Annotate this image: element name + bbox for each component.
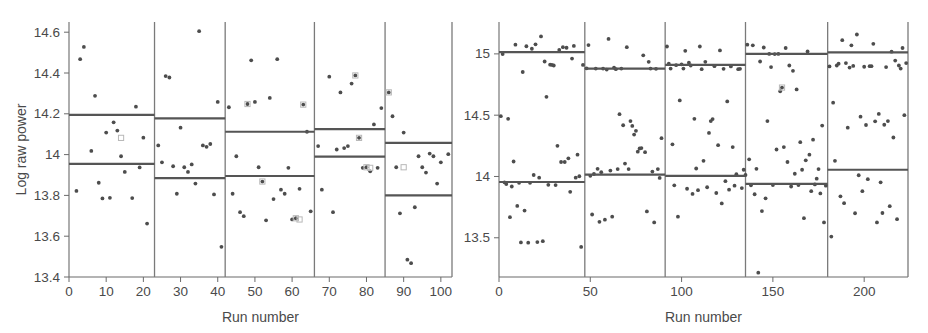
data-point xyxy=(130,196,134,200)
data-point xyxy=(208,142,212,146)
data-point xyxy=(524,44,528,48)
data-point xyxy=(576,153,580,157)
data-point xyxy=(660,136,664,140)
data-point xyxy=(817,167,821,171)
x-tick-label: 60 xyxy=(285,284,300,299)
data-point xyxy=(618,112,622,116)
data-point xyxy=(795,88,799,92)
data-point xyxy=(793,172,797,176)
chart-panel-left: 13.413.613.81414.214.414.601020304050607… xyxy=(0,0,464,333)
data-point xyxy=(769,65,773,69)
y-tick-label: 13.4 xyxy=(34,270,61,285)
data-point xyxy=(242,214,246,218)
data-point xyxy=(733,184,737,188)
data-point xyxy=(828,64,832,68)
data-point xyxy=(532,173,536,177)
data-point xyxy=(309,209,313,213)
x-axis-title: Run number xyxy=(222,309,299,325)
data-point xyxy=(848,66,852,70)
data-point xyxy=(839,194,843,198)
data-point xyxy=(101,197,105,201)
data-point xyxy=(335,148,339,152)
data-point xyxy=(691,192,695,196)
data-point xyxy=(787,64,791,68)
data-point xyxy=(112,120,116,124)
data-point xyxy=(846,126,850,130)
data-point xyxy=(755,167,759,171)
data-point xyxy=(714,191,718,195)
data-point xyxy=(570,57,574,61)
plot-area-right-panel: 13.51414.515050100150200Run numberLog ra… xyxy=(464,0,928,333)
data-point xyxy=(722,67,726,71)
data-point xyxy=(391,114,395,118)
x-tick-label: 10 xyxy=(99,284,114,299)
data-point xyxy=(764,196,768,200)
data-point xyxy=(156,144,160,148)
data-point xyxy=(786,160,790,164)
data-point xyxy=(627,167,631,171)
data-point xyxy=(791,69,795,73)
data-point xyxy=(800,168,804,172)
data-point xyxy=(815,177,819,181)
data-point xyxy=(766,119,770,123)
data-point xyxy=(402,131,406,135)
data-point xyxy=(643,150,647,154)
data-point xyxy=(809,189,813,193)
data-point xyxy=(842,201,846,205)
data-point xyxy=(870,64,874,68)
x-tick-label: 70 xyxy=(322,284,337,299)
data-point xyxy=(703,60,707,64)
data-point xyxy=(727,188,731,192)
data-point xyxy=(577,174,581,178)
data-point xyxy=(514,43,518,47)
data-point xyxy=(257,165,261,169)
data-point xyxy=(702,159,706,163)
data-point xyxy=(526,241,530,245)
data-point xyxy=(534,42,538,46)
data-point xyxy=(372,123,376,127)
data-point xyxy=(780,86,784,90)
x-tick-label: 80 xyxy=(359,284,374,299)
data-point xyxy=(855,33,859,37)
plot-area-left-panel: 13.413.613.81414.214.414.601020304050607… xyxy=(0,0,464,333)
data-point xyxy=(645,210,649,214)
y-tick-label: 13.6 xyxy=(34,229,60,244)
data-point xyxy=(598,220,602,224)
data-point xyxy=(740,186,744,190)
data-point xyxy=(590,213,594,217)
data-point xyxy=(656,167,660,171)
data-point xyxy=(784,46,788,50)
data-point xyxy=(676,215,680,219)
data-point xyxy=(625,45,629,49)
data-point xyxy=(901,46,905,50)
data-point xyxy=(543,60,547,64)
data-point xyxy=(603,218,607,222)
data-point xyxy=(860,189,864,193)
data-point xyxy=(138,166,142,170)
data-point xyxy=(658,176,662,180)
data-point xyxy=(621,123,625,127)
data-point xyxy=(833,159,837,163)
data-point xyxy=(510,185,514,189)
data-point xyxy=(175,192,179,196)
data-point xyxy=(260,180,264,184)
data-point xyxy=(141,136,145,140)
data-point xyxy=(530,47,534,51)
data-point xyxy=(357,136,361,140)
data-point xyxy=(579,245,583,249)
highlighted-point xyxy=(118,135,123,140)
data-point xyxy=(705,185,709,189)
data-point xyxy=(678,99,682,103)
data-point xyxy=(672,183,676,187)
data-point xyxy=(647,60,651,64)
data-point xyxy=(506,117,510,121)
data-point xyxy=(350,82,354,86)
data-point xyxy=(630,124,634,128)
data-point xyxy=(545,95,549,99)
data-point xyxy=(879,180,883,184)
data-point xyxy=(871,42,875,46)
data-point xyxy=(700,67,704,71)
data-point xyxy=(145,222,149,226)
data-point xyxy=(190,162,194,166)
data-point xyxy=(758,60,762,64)
